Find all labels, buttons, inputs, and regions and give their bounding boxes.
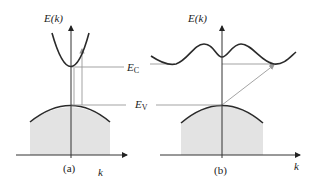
x-axis-label-b: k xyxy=(294,160,300,172)
indirect-transition-arrow-b xyxy=(222,65,274,105)
ev-label: EV xyxy=(134,98,148,112)
conduction-band-curve-b xyxy=(151,44,296,65)
band-diagram: E(k) k EC EV (a) E(k) k (b) xyxy=(0,0,317,189)
panel-a: E(k) k EC EV (a) xyxy=(16,12,148,178)
y-axis-label-b: E(k) xyxy=(187,12,207,25)
caption-a: (a) xyxy=(63,162,76,175)
x-axis-label-a: k xyxy=(98,166,104,178)
caption-b: (b) xyxy=(214,164,227,177)
y-axis-label-a: E(k) xyxy=(43,12,63,25)
panel-b: E(k) k (b) xyxy=(150,12,300,177)
ec-label: EC xyxy=(126,61,139,75)
